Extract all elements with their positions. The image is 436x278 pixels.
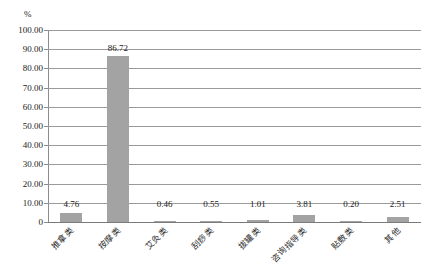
- bar-value-label: 1.01: [250, 200, 266, 209]
- bar[interactable]: [107, 56, 129, 223]
- x-axis-tick-label: 按摩类: [97, 226, 122, 251]
- x-axis-tick-label: 艾灸类: [143, 226, 168, 251]
- y-axis-tick-label: 100.00: [18, 26, 43, 35]
- x-axis-tick-labels: 推拿类按摩类艾灸类刮痧类拔罐类咨询指导类贴敷类其他: [48, 224, 421, 278]
- bar[interactable]: [200, 221, 222, 223]
- bar-slot: 0.46: [141, 30, 188, 222]
- x-axis-tick-label: 其他: [383, 226, 402, 245]
- plot-area: 4.7686.720.460.551.013.810.202.51: [48, 30, 421, 222]
- bar-slot: 0.55: [188, 30, 235, 222]
- bar-value-label: 0.20: [343, 200, 359, 209]
- bar-value-label: 86.72: [108, 44, 128, 53]
- bar-slot: 86.72: [95, 30, 142, 222]
- y-axis-tick-labels: 100.0090.0080.0070.0060.0050.0040.0030.0…: [0, 0, 46, 278]
- bar[interactable]: [247, 220, 269, 222]
- y-axis-tick-label: 0: [39, 218, 44, 227]
- x-axis-tick-label: 推拿类: [50, 226, 75, 251]
- bar[interactable]: [154, 221, 176, 223]
- bar-slot: 0.20: [328, 30, 375, 222]
- y-axis-tick-label: 30.00: [23, 160, 43, 169]
- y-axis-tick-label: 10.00: [23, 199, 43, 208]
- bar-series: 4.7686.720.460.551.013.810.202.51: [48, 30, 421, 222]
- y-axis-tick-label: 80.00: [23, 64, 43, 73]
- bar-slot: 4.76: [48, 30, 95, 222]
- x-axis-tick-label: 贴敷类: [330, 226, 355, 251]
- bar-value-label: 2.51: [390, 200, 406, 209]
- y-axis-tick-label: 40.00: [23, 141, 43, 150]
- bar-value-label: 0.55: [203, 200, 219, 209]
- bar-value-label: 0.46: [157, 200, 173, 209]
- bar-chart: % 100.0090.0080.0070.0060.0050.0040.0030…: [0, 0, 436, 278]
- y-axis-tick-label: 90.00: [23, 45, 43, 54]
- x-axis-tick-label: 刮痧类: [190, 226, 215, 251]
- bar[interactable]: [340, 221, 362, 223]
- x-axis-tick-label: 咨询指导类: [271, 226, 309, 264]
- bar-value-label: 3.81: [297, 200, 313, 209]
- bar[interactable]: [387, 217, 409, 222]
- bar-value-label: 4.76: [63, 200, 79, 209]
- y-axis-tick-label: 20.00: [23, 180, 43, 189]
- bar-slot: 2.51: [374, 30, 421, 222]
- bar-slot: 3.81: [281, 30, 328, 222]
- y-axis-tick-mark: [44, 222, 48, 223]
- x-axis-tick-label: 拔罐类: [237, 226, 262, 251]
- y-axis-tick-label: 70.00: [23, 84, 43, 93]
- y-axis-tick-label: 60.00: [23, 103, 43, 112]
- bar[interactable]: [293, 215, 315, 222]
- bar-slot: 1.01: [235, 30, 282, 222]
- y-axis-tick-label: 50.00: [23, 122, 43, 131]
- bar[interactable]: [60, 213, 82, 222]
- x-axis-baseline: [48, 222, 421, 223]
